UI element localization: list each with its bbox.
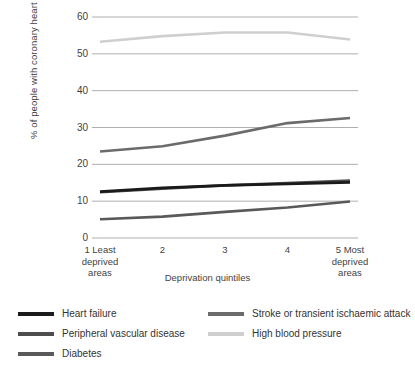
series-line (100, 32, 350, 41)
legend-swatch (208, 312, 244, 316)
legend-swatch (18, 352, 54, 356)
legend-label: Peripheral vascular disease (62, 328, 185, 340)
series-line (100, 118, 350, 152)
legend-swatch (208, 332, 244, 336)
legend-label: Stroke or transient ischaemic attack (252, 308, 410, 320)
legend-swatch (18, 332, 54, 336)
legend-swatch (18, 312, 54, 316)
series-line (100, 182, 350, 191)
series-lines (100, 32, 350, 219)
legend-label: Diabetes (62, 348, 101, 360)
legend-label: Heart failure (62, 308, 116, 320)
chart-figure: % of people with coronary heart disease … (0, 0, 415, 370)
x-axis-title: Deprivation quintiles (0, 272, 415, 283)
legend-label: High blood pressure (252, 328, 342, 340)
series-line (100, 202, 350, 220)
